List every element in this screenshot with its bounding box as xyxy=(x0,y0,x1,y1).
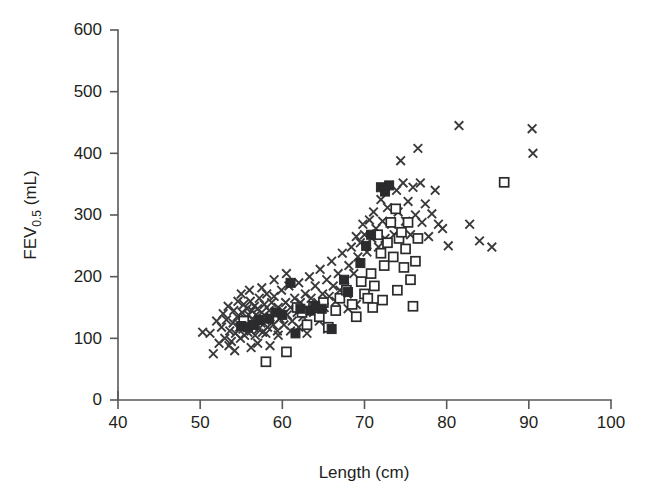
x-tick-label: 50 xyxy=(191,413,210,432)
data-points-layer xyxy=(198,121,537,366)
y-tick-label: 600 xyxy=(74,20,102,39)
data-point-cross xyxy=(377,195,386,204)
data-point-open-square xyxy=(408,302,417,311)
data-point-open-square xyxy=(391,204,400,213)
data-point-cross xyxy=(455,121,464,130)
data-point-cross xyxy=(428,209,437,218)
data-point-cross xyxy=(327,257,336,266)
data-point-cross xyxy=(465,220,474,229)
svg-text:FEV0.5 (mL): FEV0.5 (mL) xyxy=(21,170,44,259)
x-tick-label: 40 xyxy=(109,413,128,432)
y-axis-title: FEV0.5 (mL) xyxy=(21,170,44,259)
data-point-open-square xyxy=(363,294,372,303)
y-axis-title-subscript: 0.5 xyxy=(30,210,44,227)
data-point-cross xyxy=(418,218,427,227)
data-point-cross xyxy=(282,269,291,278)
data-point-open-square xyxy=(383,238,392,247)
data-point-cross xyxy=(399,179,408,188)
data-point-filled-square xyxy=(317,304,326,313)
data-point-cross xyxy=(245,286,254,295)
data-point-filled-square xyxy=(255,315,264,324)
data-point-cross xyxy=(294,279,303,288)
data-point-open-square xyxy=(404,218,413,227)
data-point-filled-square xyxy=(291,329,300,338)
data-point-filled-square xyxy=(339,275,348,284)
data-point-cross xyxy=(444,242,453,251)
axes xyxy=(118,30,611,400)
y-axis-title-unit: (mL) xyxy=(21,170,40,210)
data-point-cross xyxy=(475,237,484,246)
data-point-cross xyxy=(206,329,215,338)
scatter-plot-figure: 0100200300400500600 405060708090100 Leng… xyxy=(0,0,650,497)
y-tick-label: 200 xyxy=(74,267,102,286)
data-point-cross xyxy=(277,286,286,295)
data-point-cross xyxy=(311,282,320,291)
data-point-open-square xyxy=(401,244,410,253)
x-axis-ticks: 405060708090100 xyxy=(109,391,626,432)
data-point-cross xyxy=(224,302,233,311)
data-point-cross xyxy=(316,265,325,274)
data-point-cross xyxy=(369,208,378,217)
data-point-cross xyxy=(303,329,312,338)
data-point-open-square xyxy=(352,312,361,321)
data-point-open-square xyxy=(331,306,340,315)
data-point-open-square xyxy=(370,281,379,290)
data-point-open-square xyxy=(411,257,420,266)
data-point-cross xyxy=(266,341,275,350)
data-point-open-square xyxy=(386,218,395,227)
data-point-filled-square xyxy=(344,288,353,297)
data-point-cross xyxy=(270,275,279,284)
data-point-filled-square xyxy=(296,304,305,313)
data-point-open-square xyxy=(389,252,398,261)
data-point-cross xyxy=(414,144,423,153)
data-point-open-square xyxy=(357,277,366,286)
data-point-cross xyxy=(438,224,447,233)
data-point-open-square xyxy=(378,296,387,305)
data-point-filled-square xyxy=(367,230,376,239)
plot-canvas: 0100200300400500600 405060708090100 Leng… xyxy=(0,0,650,497)
data-point-cross xyxy=(528,124,537,133)
data-point-open-square xyxy=(393,286,402,295)
data-point-cross xyxy=(529,149,538,158)
x-tick-label: 100 xyxy=(597,413,625,432)
y-tick-label: 0 xyxy=(93,390,102,409)
data-point-cross xyxy=(257,283,266,292)
data-point-cross xyxy=(305,272,314,281)
data-point-filled-square xyxy=(286,278,295,287)
data-point-open-square xyxy=(282,347,291,356)
data-point-cross xyxy=(347,243,356,252)
data-point-filled-square xyxy=(362,241,371,250)
x-tick-label: 70 xyxy=(355,413,374,432)
x-tick-label: 90 xyxy=(519,413,538,432)
data-point-cross xyxy=(488,243,497,252)
data-point-cross xyxy=(431,186,440,195)
data-point-cross xyxy=(424,232,433,241)
data-point-open-square xyxy=(500,178,509,187)
data-point-filled-square xyxy=(278,310,287,319)
data-point-cross xyxy=(198,328,207,337)
data-point-open-square xyxy=(348,300,357,309)
y-axis-ticks: 0100200300400500600 xyxy=(74,20,118,409)
x-tick-label: 60 xyxy=(273,413,292,432)
x-axis-title: Length (cm) xyxy=(319,463,410,482)
data-point-cross xyxy=(421,200,430,209)
y-tick-label: 300 xyxy=(74,205,102,224)
data-point-cross xyxy=(396,156,405,165)
data-point-open-square xyxy=(380,261,389,270)
data-point-filled-square xyxy=(385,181,394,190)
data-point-filled-square xyxy=(327,325,336,334)
data-point-filled-square xyxy=(356,259,365,268)
y-tick-label: 400 xyxy=(74,144,102,163)
y-axis-title-base: FEV xyxy=(21,226,40,260)
data-point-cross xyxy=(217,323,226,332)
data-point-cross xyxy=(409,183,418,192)
data-point-open-square xyxy=(261,357,270,366)
data-point-cross xyxy=(301,290,310,299)
data-point-cross xyxy=(404,197,413,206)
x-tick-label: 80 xyxy=(437,413,456,432)
data-point-open-square xyxy=(376,249,385,258)
data-point-open-square xyxy=(399,263,408,272)
data-point-cross xyxy=(230,346,239,355)
data-point-open-square xyxy=(368,303,377,312)
y-tick-label: 500 xyxy=(74,82,102,101)
